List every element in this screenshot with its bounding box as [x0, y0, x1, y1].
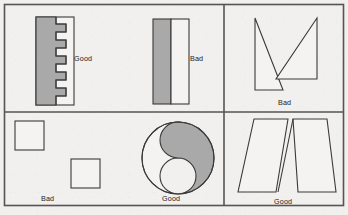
nesting-diagram-figure: Good Bad Bad Good Bad Good — [0, 0, 348, 215]
shape-group-plain-rectangles — [153, 19, 189, 104]
square-lower-right-shape — [71, 159, 100, 188]
shaded-comb-shape — [36, 17, 66, 105]
shape-group-opposed-triangles — [255, 18, 317, 90]
shape-group-inverted-trapezoids — [238, 119, 336, 192]
shape-group-separated-squares — [15, 121, 100, 188]
label-separated-squares: Bad — [41, 195, 54, 202]
right-trapezoid-shape — [293, 119, 336, 192]
label-yin-yang-circle: Good — [162, 195, 180, 202]
label-comb-interlock: Good — [74, 55, 92, 62]
label-opposed-triangles: Bad — [278, 99, 291, 106]
shaded-rectangle-shape — [153, 19, 171, 104]
shape-group-comb-interlock — [36, 17, 74, 105]
right-triangle-shape — [276, 18, 317, 79]
label-plain-rectangles: Bad — [190, 55, 203, 62]
shape-group-yin-yang-circle — [142, 122, 214, 194]
square-upper-left-shape — [15, 121, 44, 150]
clear-rectangle-shape — [171, 19, 189, 104]
diagram-canvas — [0, 0, 348, 215]
label-inverted-trapezoids: Good — [274, 198, 292, 205]
